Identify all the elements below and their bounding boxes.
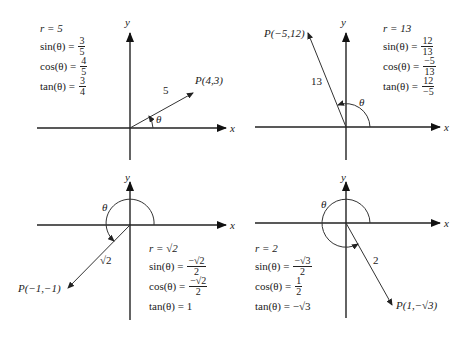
tan-denominator: −5 xyxy=(422,87,435,97)
q3-equations: r = √2 sin(θ) = −√22 cos(θ) = −√22 tan(θ… xyxy=(149,240,207,316)
tan-label: tan(θ) = 1 xyxy=(149,301,192,312)
tan-fraction: 12−5 xyxy=(422,76,435,97)
cos-label: cos(θ) = xyxy=(255,281,291,292)
tan-label: tan(θ) = xyxy=(383,81,418,92)
x-axis-label: x xyxy=(443,121,449,133)
sin-fraction: 35 xyxy=(78,36,85,57)
tan-label: tan(θ) = xyxy=(40,81,75,92)
theta-arc xyxy=(338,104,370,127)
x-axis-label: x xyxy=(229,219,235,231)
sin-numerator: −√2 xyxy=(187,256,205,267)
sin-numerator: 12 xyxy=(421,36,433,47)
sin-numerator: 3 xyxy=(78,36,85,47)
radius-equation: r = 2 xyxy=(255,243,278,254)
radius-vector xyxy=(346,223,392,305)
q1-equations: r = 5 sin(θ) = 35 cos(θ) = 45 tan(θ) = 3… xyxy=(40,20,87,96)
cos-numerator: 1 xyxy=(295,276,302,287)
radius-equation: r = √2 xyxy=(149,243,178,254)
radius-vector xyxy=(68,225,130,288)
radius-label: 2 xyxy=(373,254,379,266)
radius-equation: r = 5 xyxy=(40,23,63,34)
cos-denominator: 2 xyxy=(195,287,202,297)
cos-label: cos(θ) = xyxy=(40,61,76,72)
point-label: P(−1,−1) xyxy=(17,282,61,295)
cos-denominator: 2 xyxy=(295,287,302,297)
cos-fraction: 45 xyxy=(80,56,87,77)
sin-label: sin(θ) = xyxy=(255,261,289,272)
sin-fraction: −√32 xyxy=(293,256,311,277)
theta-label: θ xyxy=(321,198,327,210)
cos-fraction: 12 xyxy=(295,276,302,297)
sin-label: sin(θ) = xyxy=(383,41,417,52)
x-axis-label: x xyxy=(443,217,449,229)
cos-numerator: 4 xyxy=(80,56,87,67)
cos-label: cos(θ) = xyxy=(383,61,419,72)
theta-label: θ xyxy=(359,96,365,108)
y-axis-label: y xyxy=(340,16,346,28)
sin-label: sin(θ) = xyxy=(149,261,183,272)
tan-fraction: 34 xyxy=(79,76,86,97)
y-axis-label: y xyxy=(124,16,130,28)
cos-fraction: −513 xyxy=(423,56,436,77)
tan-denominator: 4 xyxy=(79,87,86,97)
q2-equations: r = 13 sin(θ) = 1213 cos(θ) = −513 tan(θ… xyxy=(383,20,436,96)
cos-fraction: −√22 xyxy=(189,276,207,297)
radius-equation: r = 13 xyxy=(383,23,411,34)
point-label: P(1,−√3) xyxy=(395,299,438,312)
point-label: P(−5,12) xyxy=(263,27,305,40)
y-axis-label: y xyxy=(124,171,130,183)
cos-numerator: −√2 xyxy=(189,276,207,287)
theta-label: θ xyxy=(102,201,108,213)
x-axis-label: x xyxy=(229,122,235,134)
tan-label: tan(θ) = −√3 xyxy=(255,301,310,312)
cos-label: cos(θ) = xyxy=(149,281,185,292)
q4-equations: r = 2 sin(θ) = −√32 cos(θ) = 12 tan(θ) =… xyxy=(255,240,314,316)
y-axis-label: y xyxy=(340,171,346,183)
sin-fraction: 1213 xyxy=(421,36,433,57)
tan-numerator: 12 xyxy=(422,76,434,87)
theta-label: θ xyxy=(156,113,162,125)
tan-numerator: 3 xyxy=(79,76,86,87)
point-label: P(4,3) xyxy=(194,74,223,87)
cos-numerator: −5 xyxy=(423,56,436,67)
radius-label: 13 xyxy=(311,75,323,87)
radius-label: 5 xyxy=(163,84,169,96)
radius-label: √2 xyxy=(100,254,112,266)
sin-numerator: −√3 xyxy=(293,256,311,267)
sin-fraction: −√22 xyxy=(187,256,205,277)
radius-vector xyxy=(130,93,193,128)
sin-label: sin(θ) = xyxy=(40,41,74,52)
theta-arc xyxy=(149,116,153,128)
